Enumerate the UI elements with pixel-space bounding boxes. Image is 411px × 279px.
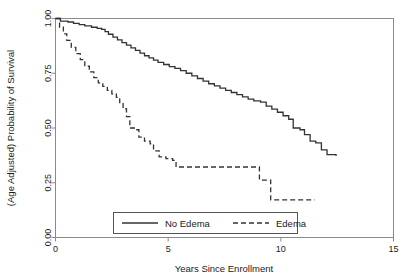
x-tick-label: 15 [388, 244, 398, 254]
x-tick-label: 0 [53, 244, 58, 254]
kaplan-meier-plot: 0.000.250.500.751.00 051015 Years Since … [0, 0, 411, 279]
legend-label-no-edema: No Edema [165, 218, 211, 229]
y-axis-title: (Age Adjusted) Probability of Survival [5, 50, 16, 206]
y-tick-label: 0.50 [43, 119, 53, 137]
y-tick-label: 1.00 [43, 10, 53, 28]
y-tick-label: 0.75 [43, 64, 53, 82]
x-tick-label: 5 [166, 244, 171, 254]
y-tick-label: 0.25 [43, 174, 53, 192]
x-tick-label: 10 [276, 244, 286, 254]
x-axis-title: Years Since Enrollment [175, 263, 274, 274]
legend: No Edema Edema [114, 213, 307, 234]
y-tick-label: 0.00 [43, 229, 53, 247]
survival-curve-figure: 0.000.250.500.751.00 051015 Years Since … [0, 0, 411, 279]
legend-label-edema: Edema [276, 218, 307, 229]
